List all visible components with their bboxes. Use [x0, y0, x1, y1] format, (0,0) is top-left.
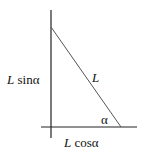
triangle-diagram: L sinα L α L cosα — [0, 0, 144, 153]
vertical-leg-label: L sinα — [6, 72, 40, 87]
hypotenuse-line — [51, 27, 121, 127]
angle-label: α — [101, 112, 108, 127]
horizontal-leg-label: L cosα — [63, 135, 99, 150]
hypotenuse-label: L — [91, 70, 99, 85]
